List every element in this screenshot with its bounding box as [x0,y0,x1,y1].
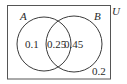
outside-value: 0.2 [92,65,106,77]
set-b-label: B [94,10,101,22]
set-a-label: A [19,10,27,22]
venn-diagram: A B U 0.1 0.25 0.45 0.2 [0,0,127,84]
b-only-value: 0.45 [64,38,84,50]
universe-label: U [112,5,121,17]
a-only-value: 0.1 [25,38,39,50]
